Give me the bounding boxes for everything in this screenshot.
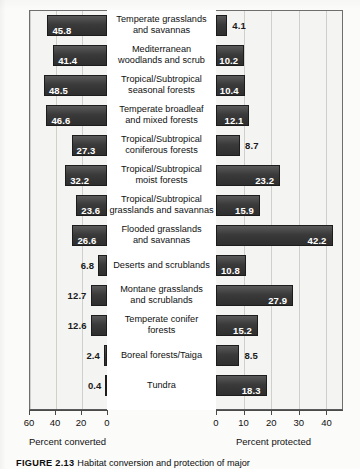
- category-label: Tropical/Subtropicalgrasslands and savan…: [107, 190, 216, 220]
- bar-row-protected: 15.9: [216, 191, 342, 221]
- bar-percent-protected[interactable]: 15.9: [216, 195, 260, 216]
- axis-tick-left: [29, 410, 30, 415]
- bar-value-converted: 23.6: [81, 201, 100, 220]
- bar-percent-protected[interactable]: 42.2: [216, 225, 333, 246]
- category-label-column: Temperate grasslandsand savannasMediterr…: [107, 10, 216, 410]
- axis-tick-left: [55, 410, 56, 415]
- axis-title-percent-protected: Percent protected: [236, 436, 311, 447]
- bar-percent-protected[interactable]: 23.2: [216, 165, 280, 186]
- bar-row-protected: 10.8: [216, 251, 342, 281]
- bar-percent-converted[interactable]: 23.6: [76, 195, 107, 216]
- bar-percent-protected[interactable]: 15.2: [216, 315, 258, 336]
- bar-value-converted: 32.2: [70, 171, 89, 190]
- figure-container: 45.841.448.546.627.332.223.626.66.812.71…: [0, 0, 360, 469]
- bar-value-converted: 0.4: [88, 376, 102, 395]
- bar-row-converted: 23.6: [30, 191, 107, 221]
- axis-tick-label-left: 40: [50, 417, 61, 428]
- axis-tick-label-left: 0: [104, 417, 109, 428]
- bar-percent-converted[interactable]: [91, 315, 107, 336]
- bar-percent-protected[interactable]: 12.1: [216, 105, 249, 126]
- chart-panel-percent-converted: 45.841.448.546.627.332.223.626.66.812.71…: [29, 10, 107, 410]
- bar-percent-protected[interactable]: 18.3: [216, 375, 267, 396]
- axis-tick-label-right: 10: [238, 417, 249, 428]
- axis-tick-left: [81, 410, 82, 415]
- bar-value-converted: 45.8: [52, 21, 71, 40]
- category-label: Mediterraneanwoodlands and scrub: [107, 40, 216, 70]
- bar-value-converted: 12.7: [68, 286, 87, 305]
- bar-row-converted: 0.4: [30, 371, 107, 401]
- bar-row-protected: 27.9: [216, 281, 342, 311]
- bar-percent-converted[interactable]: 48.5: [44, 75, 107, 96]
- bar-value-converted: 41.4: [58, 51, 77, 70]
- bar-percent-protected[interactable]: 10.2: [216, 45, 244, 66]
- bar-row-converted: 32.2: [30, 161, 107, 191]
- axis-tick-label-right: 20: [266, 417, 277, 428]
- bar-percent-converted[interactable]: 46.6: [46, 105, 107, 126]
- bar-percent-converted[interactable]: 41.4: [53, 45, 107, 66]
- bar-percent-protected[interactable]: [216, 15, 227, 36]
- bar-value-protected: 8.7: [245, 136, 259, 155]
- category-label: Temperate grasslandsand savannas: [107, 10, 216, 40]
- bar-row-converted: 12.6: [30, 311, 107, 341]
- axis-tick-right: [271, 410, 272, 415]
- axis-tick-label-right: 30: [294, 417, 305, 428]
- bar-value-converted: 6.8: [81, 256, 95, 275]
- bar-value-protected: 8.5: [244, 346, 258, 365]
- category-label: Boreal forests/Taiga: [107, 340, 216, 370]
- axis-line-left: [29, 410, 107, 411]
- category-label: Flooded grasslandsand savannas: [107, 220, 216, 250]
- bar-row-protected: 18.3: [216, 371, 342, 401]
- category-label: Tundra: [107, 370, 216, 400]
- bar-percent-converted[interactable]: 32.2: [65, 165, 107, 186]
- bar-percent-protected[interactable]: [216, 135, 240, 156]
- bar-row-protected: 10.4: [216, 71, 342, 101]
- bar-percent-protected[interactable]: [216, 345, 239, 366]
- bar-percent-converted[interactable]: 27.3: [72, 135, 107, 156]
- category-label: Tropical/Subtropicalconiferous forests: [107, 130, 216, 160]
- bar-value-converted: 27.3: [77, 141, 96, 160]
- bar-value-converted: 46.6: [51, 111, 70, 130]
- bar-value-protected: 27.9: [268, 291, 287, 310]
- bar-row-protected: 10.2: [216, 41, 342, 71]
- bar-value-protected: 10.4: [220, 81, 239, 100]
- bar-percent-protected[interactable]: 27.9: [216, 285, 293, 306]
- bar-value-protected: 12.1: [225, 111, 244, 130]
- category-label: Tropical/Subtropicalmoist forests: [107, 160, 216, 190]
- bar-percent-converted[interactable]: [98, 255, 107, 276]
- bar-percent-protected[interactable]: 10.4: [216, 75, 245, 96]
- axis-tick-right: [299, 410, 300, 415]
- bar-row-converted: 45.8: [30, 11, 107, 41]
- bar-value-converted: 48.5: [49, 81, 68, 100]
- bar-value-protected: 10.8: [221, 261, 240, 280]
- bar-value-protected: 42.2: [308, 231, 327, 250]
- axis-tick-label-right: 0: [213, 417, 218, 428]
- axis-tick-label-right: 40: [321, 417, 332, 428]
- axis-tick-label-left: 60: [24, 417, 35, 428]
- caption-text: Habitat conversion and protection of maj…: [77, 458, 250, 468]
- bar-percent-converted[interactable]: [91, 285, 108, 306]
- category-label: Tropical/Subtropicalseasonal forests: [107, 70, 216, 100]
- axis-title-percent-converted: Percent converted: [29, 436, 106, 447]
- bar-percent-converted[interactable]: 26.6: [72, 225, 107, 246]
- bar-row-converted: 26.6: [30, 221, 107, 251]
- bar-row-converted: 27.3: [30, 131, 107, 161]
- bar-row-converted: 48.5: [30, 71, 107, 101]
- bar-row-converted: 2.4: [30, 341, 107, 371]
- bar-row-protected: 4.1: [216, 11, 342, 41]
- category-label: Montane grasslandsand scrublands: [107, 280, 216, 310]
- chart-panel-percent-protected: 4.110.210.412.18.723.215.942.210.827.915…: [216, 10, 343, 410]
- bar-percent-protected[interactable]: 10.8: [216, 255, 246, 276]
- axis-tick-left: [107, 410, 108, 415]
- bar-row-converted: 46.6: [30, 101, 107, 131]
- bar-row-protected: 23.2: [216, 161, 342, 191]
- bar-row-converted: 12.7: [30, 281, 107, 311]
- bar-row-protected: 8.7: [216, 131, 342, 161]
- axis-line-right: [216, 410, 343, 411]
- bar-value-protected: 15.9: [235, 201, 254, 220]
- bar-row-converted: 41.4: [30, 41, 107, 71]
- bar-percent-converted[interactable]: 45.8: [47, 15, 107, 36]
- axis-tick-right: [244, 410, 245, 415]
- figure-caption: FIGURE 2.13 Habitat conversion and prote…: [16, 458, 352, 469]
- bar-value-protected: 10.2: [219, 51, 238, 70]
- bar-row-protected: 8.5: [216, 341, 342, 371]
